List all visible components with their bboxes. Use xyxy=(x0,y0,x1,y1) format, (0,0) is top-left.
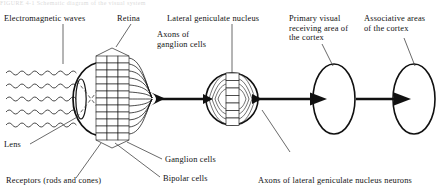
leader-lgn-axons xyxy=(262,110,290,152)
leader-associative-areas xyxy=(404,38,415,66)
leader-receptors xyxy=(76,143,101,178)
leader-bipolar-cells xyxy=(115,143,160,177)
leader-primary-visual-cortex xyxy=(322,44,333,66)
cortex-to-associative-arrow xyxy=(356,93,411,106)
lens-shape xyxy=(76,79,86,119)
label-electromagnetic-waves: Electromagnetic waves xyxy=(4,14,85,24)
label-associative-areas: Associative areas of the cortex xyxy=(364,14,425,33)
label-lateral-geniculate-nucleus: Lateral geniculate nucleus xyxy=(167,14,259,24)
label-bipolar-cells: Bipolar cells xyxy=(163,174,208,184)
label-ganglion-cells: Ganglion cells xyxy=(165,155,216,165)
lateral-geniculate-nucleus-shape xyxy=(203,73,262,126)
figure-canvas: FIGURE 4-1 Schematic diagram of the visu… xyxy=(0,0,444,195)
retina-group xyxy=(96,48,129,148)
lgn-to-cortex-arrow xyxy=(258,93,327,106)
label-axons-of-lgn-neurons: Axons of lateral geniculate nucleus neur… xyxy=(258,176,412,186)
leader-retina xyxy=(116,24,131,47)
label-receptors: Receptors (rods and cones) xyxy=(6,176,101,186)
ganglion-axon-bundle xyxy=(129,58,152,134)
electromagnetic-waves-group xyxy=(6,71,76,127)
retina-column-ganglion xyxy=(118,56,129,140)
lgn-cell-column xyxy=(226,73,239,126)
label-axons-of-ganglion-cells: Axons of ganglion cells xyxy=(157,30,206,49)
leader-lens xyxy=(30,116,79,144)
leader-lines xyxy=(30,24,415,178)
label-retina: Retina xyxy=(117,14,140,24)
label-lens: Lens xyxy=(4,140,21,150)
retina-column-bipolar xyxy=(107,56,118,140)
label-primary-visual-cortex: Primary visual receiving area of the cor… xyxy=(289,14,348,43)
retina-column-receptors xyxy=(96,56,107,140)
